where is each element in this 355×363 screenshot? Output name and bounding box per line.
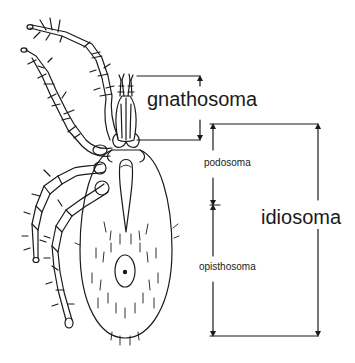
mite-illustration	[0, 0, 355, 363]
leg-2	[21, 48, 112, 157]
idiosoma-body-outline	[80, 150, 172, 338]
idiosoma-label: idiosoma	[261, 205, 341, 229]
idiosoma-bracket	[210, 124, 318, 336]
opisthosoma-label: opisthosoma	[199, 261, 256, 273]
podosoma-label: podosoma	[204, 157, 251, 169]
mite-diagram: gnathosoma podosoma opisthosoma idiosoma	[0, 0, 355, 363]
gnathosoma-label: gnathosoma	[147, 89, 257, 109]
gnathosoma-structure	[116, 74, 136, 142]
